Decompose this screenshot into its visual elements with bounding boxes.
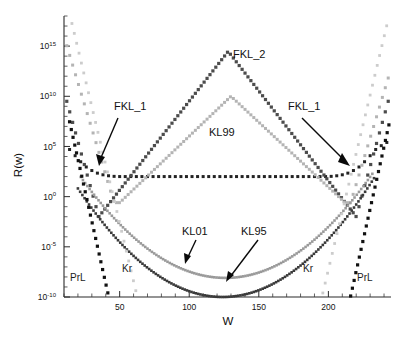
annotation-arrows (96, 118, 350, 282)
series-label-fkl1-left: FKL_1 (114, 100, 146, 112)
series-label-prl-right: PrL (357, 272, 373, 283)
series-label-kr-left: Kr (122, 263, 133, 274)
y-tick-label: 105 (43, 141, 56, 152)
x-axis-tick-labels: 50100150200 (115, 302, 336, 312)
x-tick-label: 200 (321, 302, 335, 312)
x-tick-label: 50 (115, 302, 125, 312)
y-axis-title: R(w) (12, 153, 24, 177)
series-label-fkl1-right: FKL_1 (288, 100, 320, 112)
y-tick-label: 10-5 (41, 241, 56, 252)
y-axis-tick-labels: 1015101010510010-510-10 (38, 41, 57, 302)
series-label-prl-left: PrL (70, 272, 86, 283)
series-label-fkl2: FKL_2 (233, 48, 265, 60)
series-label-kl95: KL95 (241, 225, 267, 237)
arrow-fkl1-right (302, 118, 350, 166)
y-tick-label: 1010 (40, 91, 57, 102)
series-label-kl01: KL01 (182, 225, 208, 237)
chart-figure: 1015101010510010-510-10 50100150200 (0, 0, 400, 338)
series-kl95 (77, 177, 376, 298)
series-label-kl99: KL99 (209, 126, 235, 138)
series-label-kr-right: Kr (303, 263, 314, 274)
chart-plot-svg: 1015101010510010-510-10 50100150200 (0, 0, 400, 338)
x-axis-title: W (223, 315, 234, 327)
x-tick-label: 100 (182, 302, 196, 312)
series-prl (68, 120, 391, 297)
series-kl99 (65, 44, 389, 204)
y-tick-label: 10-10 (38, 292, 57, 303)
y-tick-label: 1015 (40, 41, 57, 52)
arrow-kl01 (184, 240, 196, 264)
y-tick-label: 100 (43, 191, 56, 202)
y-axis-ticks (64, 16, 70, 297)
x-tick-label: 150 (252, 302, 266, 312)
